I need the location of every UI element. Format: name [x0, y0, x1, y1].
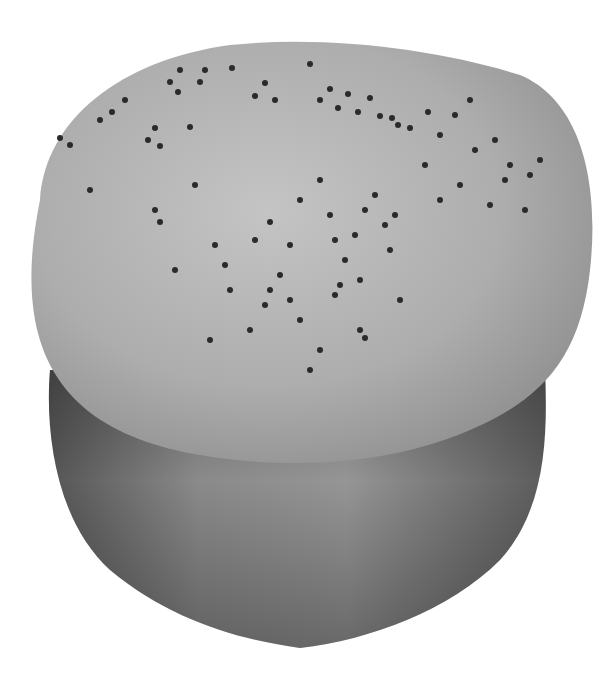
photo-bread-roll: bread roll with poppy seeds	[0, 0, 610, 674]
bread-roll-illustration	[0, 0, 610, 674]
roll-crown	[31, 42, 592, 463]
